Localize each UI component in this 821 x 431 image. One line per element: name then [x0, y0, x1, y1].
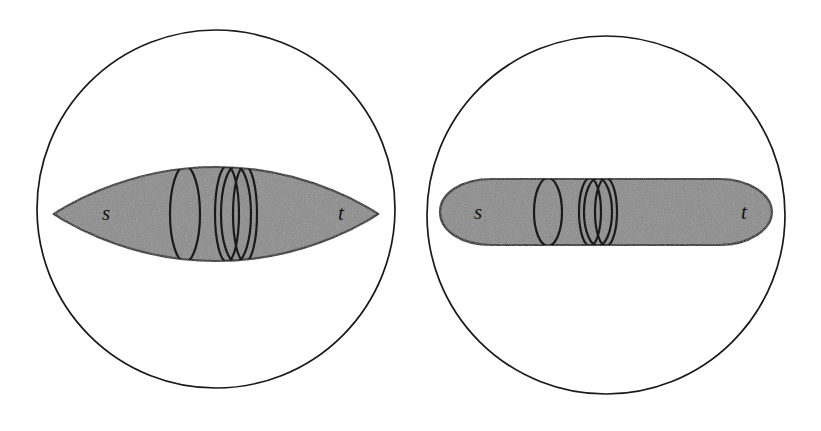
right-shaded-region — [440, 179, 772, 245]
right-label-s: s — [474, 200, 482, 224]
left-panel: s t — [37, 30, 395, 388]
right-panel: s t — [427, 36, 785, 394]
surface-diagram-svg: s t s t — [0, 0, 821, 431]
figure-root: s t s t — [0, 0, 821, 431]
left-label-s: s — [102, 201, 110, 225]
